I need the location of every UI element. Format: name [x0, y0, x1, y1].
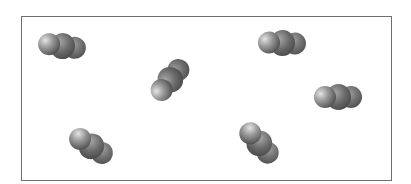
- molecule-4: [314, 84, 362, 110]
- atom-icon: [314, 86, 336, 108]
- molecule-3: [258, 29, 307, 57]
